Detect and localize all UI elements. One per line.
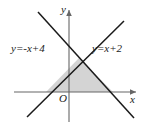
shaded-region [46,58,113,92]
origin-label: O [59,92,67,104]
coordinate-plane-figure: y=-x+4 y=x+2 O y x [0,0,145,128]
line-y-equals-x-plus-2 [27,21,124,117]
line-y-equals-minus-x-plus-4 [38,12,134,118]
y-axis-label: y [61,3,66,15]
x-axis-label: x [130,93,135,105]
equation-label-right: y=x+2 [92,42,122,54]
equation-label-left: y=-x+4 [11,42,45,54]
graph-canvas [0,0,145,128]
y-axis-arrow-icon [66,10,72,16]
